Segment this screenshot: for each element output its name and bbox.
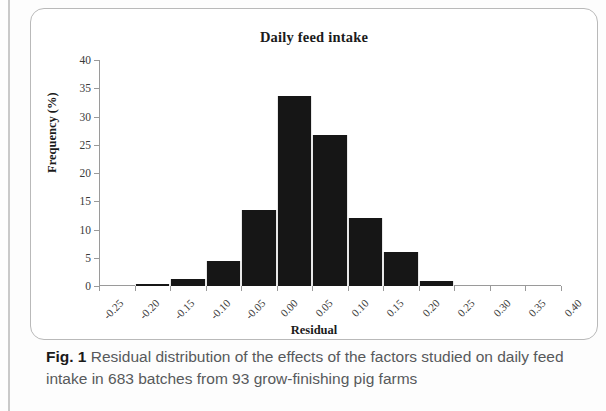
x-axis-tick-label: 0.20 — [420, 297, 442, 319]
y-axis-tick — [94, 88, 99, 89]
x-axis-tick-label: -0.20 — [136, 297, 161, 322]
y-axis-tick — [94, 230, 99, 231]
figure-caption: Fig. 1 Residual distribution of the effe… — [46, 346, 590, 390]
x-axis-tick — [206, 286, 207, 291]
bar — [419, 281, 455, 286]
x-axis-tick-label: 0.40 — [562, 297, 584, 319]
x-axis-tick — [241, 286, 242, 291]
y-axis-tick-label: 5 — [85, 252, 91, 264]
y-axis-tick-label: 40 — [80, 54, 92, 66]
y-axis-tick-label: 0 — [85, 280, 91, 292]
x-axis-tick-label: 0.05 — [313, 297, 335, 319]
x-axis-tick-label: 0.10 — [349, 297, 371, 319]
x-axis-tick — [454, 286, 455, 291]
figure-panel: Daily feed intake Frequency (%) 05101520… — [0, 0, 606, 411]
bar — [206, 261, 242, 286]
bar — [135, 284, 171, 286]
y-axis-tick-label: 25 — [80, 139, 92, 151]
x-axis-tick — [490, 286, 491, 291]
x-axis-tick — [525, 286, 526, 291]
x-axis-tick — [170, 286, 171, 291]
y-axis-tick-label: 15 — [80, 195, 92, 207]
x-axis-tick — [135, 286, 136, 291]
x-axis-tick-label: 0.00 — [277, 297, 299, 319]
x-axis-tick-label: 0.25 — [455, 297, 477, 319]
plot-area: 0510152025303540 -0.25-0.20-0.15-0.10-0.… — [99, 60, 561, 286]
y-axis-tick-label: 30 — [80, 111, 92, 123]
x-axis-tick — [348, 286, 349, 291]
y-axis-tick — [94, 258, 99, 259]
x-axis-tick-label: -0.10 — [207, 297, 232, 322]
chart-frame: Daily feed intake Frequency (%) 05101520… — [30, 8, 598, 340]
figure-caption-label: Fig. 1 — [46, 348, 86, 365]
y-axis-tick — [94, 117, 99, 118]
bar-series — [99, 60, 561, 286]
x-axis-tick-label: -0.05 — [243, 297, 268, 322]
page-margin-rule — [8, 0, 10, 411]
x-axis-tick — [312, 286, 313, 291]
x-axis-tick — [561, 286, 562, 291]
bar — [277, 96, 313, 286]
x-axis-tick — [277, 286, 278, 291]
figure-caption-text: Residual distribution of the effects of … — [46, 348, 564, 387]
y-axis-title: Frequency (%) — [45, 92, 60, 173]
bar — [312, 135, 348, 286]
bar — [241, 210, 277, 286]
y-axis-tick — [94, 60, 99, 61]
y-axis-tick-label: 35 — [80, 82, 92, 94]
x-axis-tick — [99, 286, 100, 291]
x-axis-tick-label: -0.15 — [172, 297, 197, 322]
chart-title: Daily feed intake — [31, 29, 597, 46]
y-axis-tick-label: 20 — [80, 167, 92, 179]
x-axis-tick-label: 0.15 — [384, 297, 406, 319]
x-axis-title: Residual — [31, 323, 597, 338]
y-axis-tick — [94, 145, 99, 146]
x-axis-tick-label: 0.30 — [491, 297, 513, 319]
y-axis-tick — [94, 201, 99, 202]
x-axis-tick-label: 0.35 — [526, 297, 548, 319]
bar — [170, 279, 206, 286]
bar — [348, 218, 384, 286]
x-axis-tick — [419, 286, 420, 291]
bar — [383, 252, 419, 286]
y-axis-tick — [94, 173, 99, 174]
y-axis-tick-label: 10 — [80, 224, 92, 236]
x-axis-tick — [383, 286, 384, 291]
x-axis-tick-label: -0.25 — [101, 297, 126, 322]
